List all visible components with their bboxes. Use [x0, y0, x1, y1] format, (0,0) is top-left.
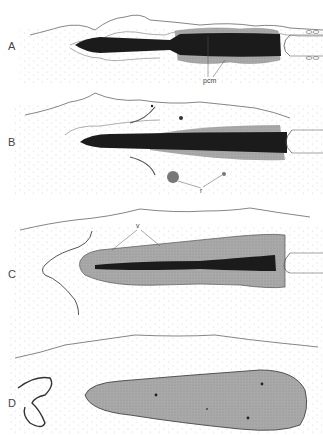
panel-letter-b: B	[8, 136, 15, 148]
panel-b-drawing	[0, 90, 323, 205]
label-pcm: pcm	[203, 77, 216, 84]
panel-d-drawing	[0, 315, 323, 435]
panel-a-drawing	[0, 0, 323, 100]
label-r: r	[200, 187, 202, 194]
panel-b: B r	[0, 90, 323, 205]
panel-c: C v	[0, 205, 323, 315]
panel-a: A pcm	[0, 0, 323, 100]
panel-d: D	[0, 315, 323, 435]
label-v: v	[136, 222, 140, 229]
panel-letter-c: C	[8, 268, 16, 280]
panel-c-drawing	[0, 205, 323, 315]
panel-letter-a: A	[8, 40, 15, 52]
panel-letter-d: D	[8, 397, 16, 409]
